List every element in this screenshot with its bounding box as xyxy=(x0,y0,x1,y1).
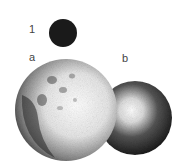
label-1: 1 xyxy=(29,23,35,35)
label-a: a xyxy=(29,51,35,63)
label-b: b xyxy=(122,52,128,64)
sphere-1 xyxy=(49,19,77,47)
spheres-illustration xyxy=(0,0,182,168)
sphere-a xyxy=(15,59,117,161)
